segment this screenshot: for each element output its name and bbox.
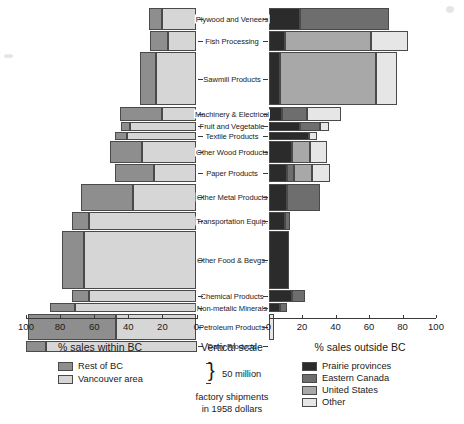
bar-segment: [130, 122, 196, 131]
row-tick: [263, 114, 268, 115]
legend-item-vancouver-area: Vancouver area: [58, 374, 143, 384]
bar-segment: [292, 141, 310, 163]
bar-outside-bc: [269, 141, 328, 163]
bar-within-bc: [72, 290, 196, 302]
row-tick: [198, 173, 203, 174]
vscale-note-line1: factory shipments: [196, 392, 269, 404]
row-tick: [263, 346, 268, 347]
bar-within-bc: [115, 164, 197, 182]
bar-segment: [269, 141, 292, 163]
bar-segment: [110, 141, 142, 163]
row-tick: [198, 152, 203, 153]
row-tick: [198, 41, 203, 42]
bar-segment: [282, 107, 307, 121]
bar-segment: [292, 290, 305, 302]
bar-segment: [312, 164, 330, 182]
bar-segment: [269, 132, 309, 140]
category-label: Plywood and Veneers: [195, 15, 270, 24]
category-label: Machinery & Electrical: [194, 109, 270, 118]
bar-segment: [269, 303, 281, 312]
bar-outside-bc: [269, 107, 341, 121]
bar-outside-bc: [269, 31, 408, 51]
bar-within-bc: [72, 212, 196, 230]
axis-tick-left: [26, 315, 27, 318]
category-label: Petroleum Products: [198, 322, 266, 331]
bar-segment: [26, 341, 46, 352]
bar-outside-bc: [269, 164, 331, 182]
category-label: Textile Products: [205, 132, 260, 141]
bar-outside-bc: [269, 52, 398, 105]
category-label: Other Metal Products: [196, 193, 269, 202]
axis-tick-right: [436, 315, 437, 318]
gutter-rule: [268, 4, 269, 318]
category-label: Fish Processing: [204, 37, 259, 46]
scan-artifact-right: [446, 6, 454, 13]
axis-tick-label-right: 60: [364, 321, 375, 332]
axis-tick-right: [302, 315, 303, 318]
bar-segment: [371, 31, 408, 51]
vscale-tick-bottom: [206, 383, 211, 384]
axis-tick-label-left: 80: [55, 321, 66, 332]
bar-within-bc: [110, 141, 197, 163]
bar-within-bc: [115, 132, 197, 140]
gutter-rule: [197, 4, 198, 318]
bar-segment: [121, 122, 130, 131]
row-tick: [198, 197, 203, 198]
row-tick: [198, 260, 203, 261]
vscale-note-line2: in 1958 dollars: [196, 404, 269, 416]
legend-right-title: % sales outside BC: [314, 341, 405, 353]
bar-segment: [89, 290, 196, 302]
bar-segment: [269, 8, 301, 30]
bar-segment: [300, 122, 320, 131]
bar-segment: [280, 52, 375, 105]
category-label: Other Food & Bevgs.: [196, 256, 268, 265]
row-tick: [263, 126, 268, 127]
row-tick: [198, 79, 203, 80]
legend-item-eastern-canada: Eastern Canada: [302, 373, 389, 383]
bar-segment: [287, 184, 321, 211]
category-label: Fruit and Vegetable: [199, 122, 266, 131]
axis-tick-label-left: 40: [123, 321, 134, 332]
bar-segment: [162, 8, 196, 30]
bar-outside-bc: [269, 122, 329, 131]
axis-tick-left: [94, 315, 95, 318]
category-label: Chemical Products: [200, 292, 265, 301]
row-tick: [263, 260, 268, 261]
row-tick: [198, 19, 203, 20]
legend-label-prairie-provinces: Prairie provinces: [322, 361, 391, 371]
swatch-prairie-provinces: [302, 362, 317, 371]
bar-outside-bc: [269, 184, 321, 211]
category-label: Transportation Equip.: [195, 216, 268, 225]
bar-segment: [320, 122, 328, 131]
bar-within-bc: [149, 8, 197, 30]
bar-segment: [156, 52, 197, 105]
legend-label-rest-of-bc: Rest of BC: [78, 361, 123, 371]
bar-segment: [269, 184, 287, 211]
axis-tick-right: [403, 315, 404, 318]
row-tick: [263, 41, 268, 42]
bar-segment: [72, 290, 89, 302]
axis-tick-label-left: 0: [194, 321, 199, 332]
row-tick: [263, 296, 268, 297]
bar-within-bc: [120, 107, 197, 121]
row-tick: [198, 221, 203, 222]
legend-label-other: Other: [322, 397, 345, 407]
row-tick: [198, 126, 203, 127]
bar-within-bc: [150, 31, 196, 51]
row-tick: [198, 308, 203, 309]
bar-segment: [269, 164, 287, 182]
bar-outside-bc: [269, 290, 306, 302]
row-tick: [263, 79, 268, 80]
bar-segment: [168, 31, 197, 51]
bar-segment: [150, 31, 167, 51]
bar-segment: [269, 107, 282, 121]
legend-item-other: Other: [302, 397, 345, 407]
bar-segment: [115, 132, 127, 140]
bar-segment: [127, 132, 197, 140]
legend-item-prairie-provinces: Prairie provinces: [302, 361, 391, 371]
bar-segment: [269, 290, 292, 302]
axis-tick-label-left: 60: [89, 321, 100, 332]
row-tick: [263, 173, 268, 174]
bar-segment: [269, 52, 281, 105]
row-tick: [263, 136, 268, 137]
